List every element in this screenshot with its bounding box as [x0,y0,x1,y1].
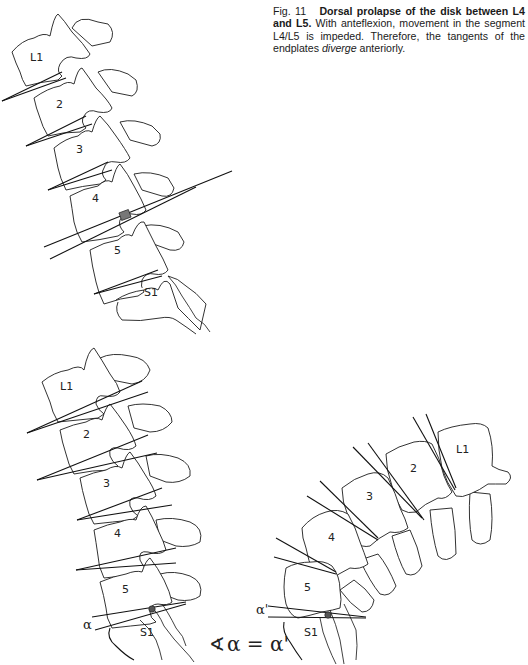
top-label-2: 2 [56,98,63,111]
spine-illustrations: L1 2 3 4 5 S1 L1 [0,0,528,665]
equation-text: α = α' [227,632,289,656]
bl-alpha-label: α [83,617,92,632]
top-label-l1: L1 [30,51,43,64]
bl-disk-marker [149,606,155,612]
br-disk-marker [325,612,331,618]
br-label-2: 2 [410,462,417,475]
angle-equation: ∢ α = α' [209,632,289,656]
bl-label-3: 3 [103,477,110,490]
top-spine-figure: L1 2 3 4 5 S1 [2,14,232,334]
bottom-left-spine-figure: L1 2 3 4 5 S1 α [27,348,201,662]
bl-label-4: 4 [114,527,121,540]
top-label-3: 3 [76,143,83,156]
br-label-3: 3 [366,490,373,503]
angle-symbol-icon: ∢ [209,633,225,655]
br-label-s1: S1 [304,626,318,639]
br-label-l1: L1 [456,443,469,456]
top-label-5: 5 [114,244,121,257]
br-label-5: 5 [304,581,311,594]
bl-label-5: 5 [122,583,129,596]
br-label-4: 4 [328,531,335,544]
bl-label-l1: L1 [60,380,73,393]
top-label-4: 4 [92,192,99,205]
bottom-right-spine-figure: L1 2 3 4 5 S1 α' [256,414,511,664]
br-alpha-prime-label: α' [256,602,268,617]
bl-label-s1: S1 [140,626,154,639]
bl-label-2: 2 [83,428,90,441]
top-label-s1: S1 [144,286,158,299]
